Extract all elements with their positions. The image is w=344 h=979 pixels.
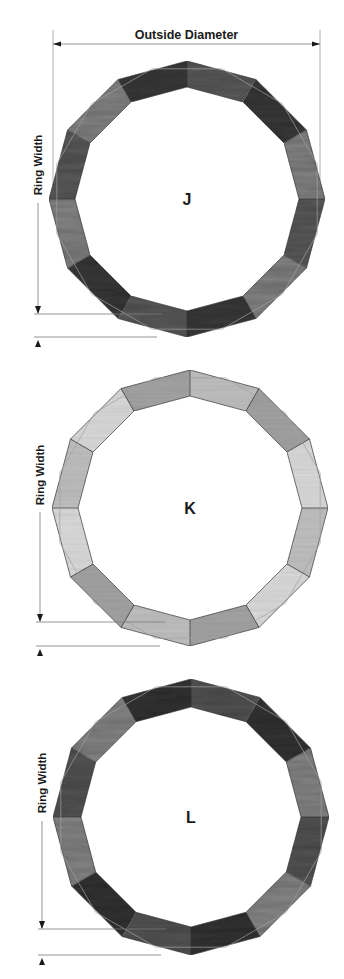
- ring-segment: [243, 255, 307, 319]
- ring-segment: [71, 564, 135, 628]
- ring-segment: [246, 698, 311, 763]
- arrow-up-icon: [35, 340, 41, 347]
- ring-segment: [71, 389, 135, 453]
- arrow-down-icon: [37, 614, 43, 622]
- ring-segment: [52, 508, 93, 577]
- ring-width-label: Ring Width: [32, 135, 44, 196]
- ring-segment: [121, 605, 190, 646]
- ring-segment: [121, 370, 190, 411]
- ring-segment: [287, 508, 328, 577]
- ring-segment: [190, 605, 259, 646]
- ring-segment: [68, 80, 132, 144]
- ring-segment: [187, 61, 256, 102]
- arrow-down-icon: [39, 921, 45, 929]
- ring-segment: [187, 296, 256, 337]
- arrow-up-icon: [39, 958, 45, 965]
- ring-segment: [118, 296, 187, 337]
- ring-k: K Ring Width: [34, 370, 328, 656]
- arrow-right-icon: [312, 42, 320, 47]
- ring-segment: [118, 61, 187, 102]
- ring-width-label: Ring Width: [34, 445, 46, 506]
- ring-segment: [72, 698, 137, 763]
- ring-l: L Ring Width: [36, 679, 329, 965]
- ring-segment: [52, 439, 93, 508]
- ring-segment: [284, 199, 325, 268]
- outside-diameter-label: Outside Diameter: [135, 28, 239, 42]
- ring-label: L: [186, 809, 196, 826]
- ring-segment: [49, 130, 90, 199]
- segmented-rings-diagram: Outside Diameter J Ring Width K Ring Wid…: [0, 0, 344, 979]
- ring-segment: [246, 872, 311, 937]
- arrow-left-icon: [53, 42, 61, 47]
- ring-segment: [246, 564, 310, 628]
- arrow-up-icon: [37, 649, 43, 656]
- ring-width-label: Ring Width: [36, 753, 48, 814]
- ring-j: J Ring Width: [32, 61, 325, 347]
- ring-segment: [49, 199, 90, 268]
- arrow-down-icon: [35, 306, 41, 314]
- ring-segment: [243, 80, 307, 144]
- ring-segment: [72, 872, 137, 937]
- ring-segment: [190, 370, 259, 411]
- ring-segment: [284, 130, 325, 199]
- ring-label: J: [183, 191, 192, 208]
- ring-label: K: [184, 500, 196, 517]
- ring-segment: [68, 255, 132, 319]
- ring-segment: [246, 389, 310, 453]
- ring-segment: [287, 439, 328, 508]
